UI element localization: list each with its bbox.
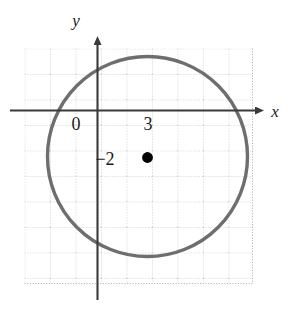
y-axis-label: y xyxy=(70,11,80,30)
x-axis-label: x xyxy=(270,102,279,121)
figure-container: y x 0 3 −2 xyxy=(0,0,293,312)
circle-center-point xyxy=(142,152,153,163)
y-tick-label-minus-2: −2 xyxy=(95,149,114,169)
coordinate-plane-graph: y x 0 3 −2 xyxy=(0,0,293,312)
origin-label: 0 xyxy=(72,114,81,134)
x-tick-label-3: 3 xyxy=(144,114,153,134)
